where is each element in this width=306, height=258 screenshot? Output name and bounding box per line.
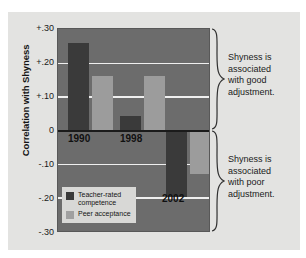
legend-label-teacher: Teacher-rated competence xyxy=(78,191,121,207)
y-tick-2: +.10 xyxy=(22,91,54,101)
legend-label-peer: Peer acceptance xyxy=(78,210,131,218)
plot-area: 1990 1998 2002 Teacher-rated competence … xyxy=(57,28,210,232)
x-label-2002: 2002 xyxy=(162,193,184,204)
y-tick-4: -.10 xyxy=(22,159,54,169)
chart-figure: Correlation with Shyness +.30 +.20 +.10 … xyxy=(0,0,306,258)
y-tick-6: -.30 xyxy=(22,227,54,237)
y-tick-1: +.20 xyxy=(22,57,54,67)
bar-1990-teacher-rated-competence xyxy=(68,43,89,130)
bar-2002-teacher-rated-competence xyxy=(166,130,187,197)
y-tick-5: -.20 xyxy=(22,193,54,203)
bar-1990-peer-acceptance xyxy=(92,76,113,130)
chart-legend: Teacher-rated competence Peer acceptance xyxy=(62,187,136,223)
bar-2002-peer-acceptance xyxy=(190,130,210,174)
y-tick-0: +.30 xyxy=(22,23,54,33)
legend-swatch-icon-teacher xyxy=(66,192,74,200)
brace-upper-icon xyxy=(211,28,225,130)
zero-baseline xyxy=(58,130,209,132)
bar-1998-peer-acceptance xyxy=(144,76,165,130)
legend-item-peer-acceptance: Peer acceptance xyxy=(66,210,131,219)
bar-1998-teacher-rated-competence xyxy=(120,116,141,130)
x-label-1998: 1998 xyxy=(120,133,142,144)
annotation-good-adjustment: Shyness is associated with good adjustme… xyxy=(228,52,304,98)
legend-item-teacher-rated-competence: Teacher-rated competence xyxy=(66,191,131,207)
legend-swatch-icon-peer xyxy=(66,211,74,219)
brace-lower-icon xyxy=(211,130,225,232)
x-label-1990: 1990 xyxy=(68,133,90,144)
y-axis-tick-labels: +.30 +.20 +.10 0 -.10 -.20 -.30 xyxy=(22,28,54,232)
y-tick-3: 0 xyxy=(22,125,54,135)
annotation-poor-adjustment: Shyness is associated with poor adjustme… xyxy=(228,154,304,200)
